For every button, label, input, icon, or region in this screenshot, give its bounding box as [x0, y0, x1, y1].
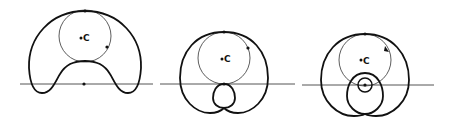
diagram-canvas: C C C	[0, 0, 454, 125]
center-label: C	[224, 54, 231, 64]
marked-point	[105, 45, 108, 48]
marked-point	[363, 32, 366, 35]
marked-point	[222, 30, 225, 33]
figure-3: C	[302, 32, 434, 116]
limacon-curve	[29, 11, 141, 93]
limacon-inner-loop	[347, 73, 383, 114]
limacon-inner-loop	[213, 84, 235, 108]
limacon-diagram: C C C	[0, 0, 454, 125]
figure-1: C	[20, 9, 153, 93]
marked-point	[246, 46, 249, 49]
figure-2: C	[160, 30, 295, 113]
limacon-outer-curve	[321, 34, 409, 116]
limacon-outer-curve	[180, 32, 268, 113]
marked-point	[222, 82, 225, 85]
marked-point	[82, 82, 85, 85]
marked-point	[83, 9, 86, 12]
center-label: C	[83, 33, 90, 43]
center-label: C	[363, 56, 370, 66]
marked-point	[363, 83, 366, 86]
